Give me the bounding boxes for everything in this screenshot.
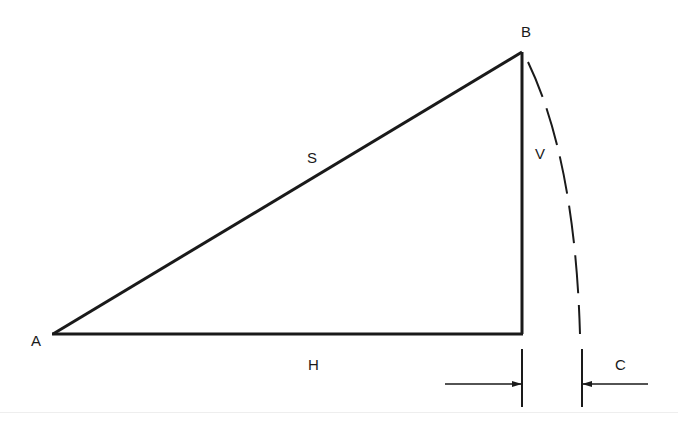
dashed-arc xyxy=(528,62,580,334)
side-s-hypotenuse xyxy=(53,52,522,334)
triangle-diagram xyxy=(0,0,678,439)
side-label-v: V xyxy=(535,146,545,161)
vertex-label-b: B xyxy=(521,24,531,39)
side-label-h: H xyxy=(308,357,319,372)
faint-baseline xyxy=(0,412,678,413)
vertex-label-a: A xyxy=(31,333,41,348)
triangle xyxy=(52,52,523,334)
dimension-label-c: C xyxy=(615,357,626,372)
side-label-s: S xyxy=(307,150,317,165)
